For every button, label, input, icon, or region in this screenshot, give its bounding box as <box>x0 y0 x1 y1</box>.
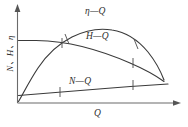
arrow-up-icon <box>15 4 21 12</box>
pump-characteristic-curve-figure: η—Q H—Q N—Q Q N、H、η <box>0 0 188 127</box>
h-q-curve <box>19 41 165 82</box>
arrow-right-icon <box>173 100 181 106</box>
n-q-curve-label: N—Q <box>69 76 91 86</box>
y-axis-label: N、H、η <box>3 27 16 81</box>
x-axis-label: Q <box>94 108 101 118</box>
eta-q-curve-label: η—Q <box>85 6 106 16</box>
n-q-curve <box>19 84 169 96</box>
h-q-curve-label: H—Q <box>86 31 109 41</box>
